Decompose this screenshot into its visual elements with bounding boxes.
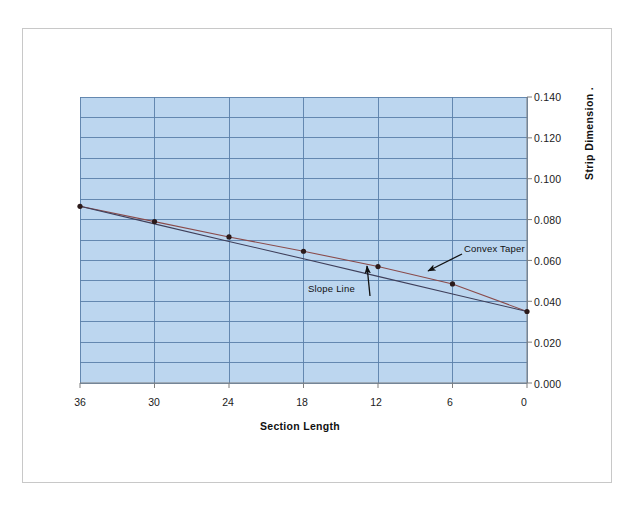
- ytick-label: 0.100: [534, 173, 561, 185]
- data-point-marker: [77, 204, 82, 209]
- xtick-label: 12: [370, 396, 382, 408]
- data-point-marker: [152, 219, 157, 224]
- data-point-marker: [450, 281, 455, 286]
- ytick-label: 0.040: [534, 296, 561, 308]
- xtick-label: 18: [296, 396, 308, 408]
- xtick-label: 36: [74, 396, 86, 408]
- ytick-label: 0.020: [534, 337, 561, 349]
- y-axis-title: Strip Dimension .: [583, 40, 595, 180]
- ytick-label: 0.080: [534, 214, 561, 226]
- xtick-label: 6: [447, 396, 453, 408]
- ytick-label: 0.140: [534, 91, 561, 103]
- ytick-label: 0.000: [534, 378, 561, 390]
- chart-figure: 0.140 0.120 0.100 0.080 0.060 0.040 0.02…: [0, 0, 637, 506]
- x-axis-title: Section Length: [0, 420, 600, 432]
- xtick-label: 0: [521, 396, 527, 408]
- xtick-label: 24: [222, 396, 234, 408]
- annotation-convex-taper-label: Convex Taper: [464, 243, 525, 254]
- data-point-marker: [375, 264, 380, 269]
- ytick-label: 0.120: [534, 132, 561, 144]
- annotation-slope-line-label: Slope Line: [308, 283, 355, 294]
- data-point-marker: [226, 234, 231, 239]
- ytick-label: 0.060: [534, 255, 561, 267]
- data-point-marker: [301, 249, 306, 254]
- xtick-label: 30: [148, 396, 160, 408]
- data-point-marker: [524, 309, 529, 314]
